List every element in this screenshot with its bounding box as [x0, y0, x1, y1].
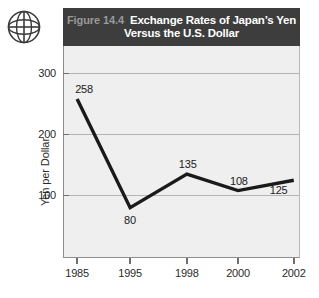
point-label-1985: 258: [75, 83, 93, 95]
figure-header-text: Figure 14.4 Exchange Rates of Japan’s Ye…: [63, 8, 300, 46]
x-tick-label-2002: 2002: [282, 267, 306, 279]
figure-title-line-2: Versus the U.S. Dollar: [124, 27, 239, 40]
point-label-2002: 125: [270, 184, 288, 196]
globe-icon: [6, 9, 42, 45]
x-tick-label-1995: 1995: [118, 267, 142, 279]
x-tick-mark-2000: [237, 258, 239, 264]
y-tick-label-100: 100: [38, 189, 56, 201]
figure-container: Figure 14.4 Exchange Rates of Japan’s Ye…: [0, 0, 319, 298]
x-tick-label-2000: 2000: [226, 267, 250, 279]
y-tick-label-300: 300: [38, 67, 56, 79]
data-series-line: [63, 46, 300, 258]
figure-title-line-1: Figure 14.4 Exchange Rates of Japan’s Ye…: [67, 14, 296, 27]
y-tick-label-200: 200: [38, 128, 56, 140]
figure-number-label: Figure 14.4: [67, 14, 124, 26]
x-tick-mark-1995: [129, 258, 131, 264]
figure-header-band: Figure 14.4 Exchange Rates of Japan’s Ye…: [63, 8, 300, 46]
point-label-1998: 135: [179, 158, 197, 170]
x-tick-mark-1998: [186, 258, 188, 264]
x-tick-mark-2002: [293, 258, 295, 264]
x-axis: 19851995199820002002: [63, 258, 300, 292]
y-axis: Yen per Dollar 100200300: [26, 46, 56, 258]
point-label-2000: 108: [230, 175, 248, 187]
x-tick-label-1985: 1985: [65, 267, 89, 279]
x-tick-label-1998: 1998: [175, 267, 199, 279]
figure-title-text: Exchange Rates of Japan’s Yen: [130, 14, 296, 27]
x-tick-mark-1985: [76, 258, 78, 264]
point-label-1995: 80: [124, 214, 136, 226]
line-path: [77, 99, 294, 208]
